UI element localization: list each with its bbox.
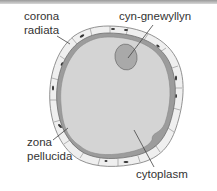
label-zona-pellucida-line2: pellucida [27,150,72,163]
label-zona-pellucida-line1: zona [27,136,52,149]
label-corona-radiata-line1: corona [24,10,59,23]
label-nucleus: cyn-gnewyllyn [119,10,191,23]
label-cytoplasm: cytoplasm [136,168,188,181]
leader-corona-radiata [57,36,70,44]
label-corona-radiata-line2: radiata [24,24,59,37]
